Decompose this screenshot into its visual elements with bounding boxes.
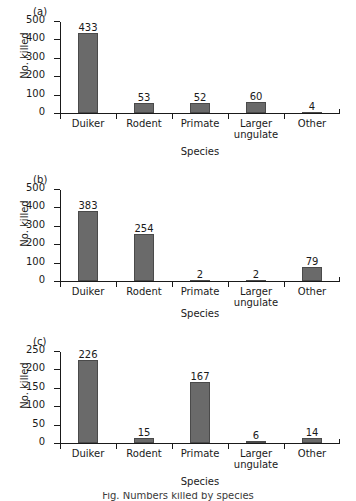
panel-a-category-other: Other bbox=[284, 118, 340, 129]
panel-a-ytick-4: 400 bbox=[54, 39, 60, 40]
panel-b-category-duiker: Duiker bbox=[60, 286, 116, 297]
panel-a-x-axis-title: Species bbox=[60, 146, 340, 157]
panel-b-plot-area: 0 100 200 300 400 500 383 254 2 2 bbox=[60, 190, 340, 282]
panel-c-bar-rodent: 15 bbox=[134, 438, 154, 444]
panel-c-bar-other: 14 bbox=[302, 438, 322, 443]
panel-c-ytick-4: 200 bbox=[54, 369, 60, 370]
panel-c-x-axis-title: Species bbox=[60, 476, 340, 487]
panel-a-x-axis-line bbox=[60, 113, 340, 114]
panel-c-x-axis-line bbox=[60, 443, 340, 444]
panel-b-ytick-2: 200 bbox=[54, 244, 60, 245]
panel-a-x-axis-end-cap bbox=[339, 109, 340, 114]
panel-b-bar-primate: 2 bbox=[190, 280, 210, 282]
panel-a: (a) No. killed 0 100 200 300 400 500 433 bbox=[0, 0, 356, 168]
panel-a-ytick-1: 100 bbox=[54, 95, 60, 96]
panel-c-bar-duiker: 226 bbox=[78, 360, 98, 443]
panel-a-bar-other: 4 bbox=[302, 112, 322, 114]
panel-b-bar-other: 79 bbox=[302, 267, 322, 282]
panel-b-bar-duiker: 383 bbox=[78, 211, 98, 282]
panel-b-category-other: Other bbox=[284, 286, 340, 297]
panel-b-x-axis-end-cap bbox=[339, 277, 340, 282]
panel-b-x-axis-line bbox=[60, 281, 340, 282]
panel-b-bar-rodent: 254 bbox=[134, 234, 154, 281]
panel-b-ytick-5: 500 bbox=[54, 189, 60, 190]
panel-a-bar-larger-ungulate: 60 bbox=[246, 102, 266, 113]
panel-c-bar-larger-ungulate: 6 bbox=[246, 441, 266, 443]
panel-a-category-larger-ungulate: Larger ungulate bbox=[228, 118, 284, 140]
panel-c-ytick-5: 250 bbox=[54, 351, 60, 352]
panel-b-bar-larger-ungulate: 2 bbox=[246, 280, 266, 282]
panel-a-bar-duiker: 433 bbox=[78, 33, 98, 113]
panel-c-ytick-1: 50 bbox=[54, 425, 60, 426]
panel-a-ytick-3: 300 bbox=[54, 58, 60, 59]
panel-a-category-rodent: Rodent bbox=[116, 118, 172, 129]
panel-a-y-axis-line bbox=[60, 22, 61, 114]
panel-a-ytick-2: 200 bbox=[54, 76, 60, 77]
panel-b: (b) No. killed 0 100 200 300 400 500 383… bbox=[0, 168, 356, 330]
panel-a-plot-area: 0 100 200 300 400 500 433 53 52 60 bbox=[60, 22, 340, 114]
panel-c-category-duiker: Duiker bbox=[60, 448, 116, 459]
panel-c-plot-area: 0 50 100 150 200 250 226 15 167 6 bbox=[60, 352, 340, 444]
panel-c-x-axis-end-cap bbox=[339, 439, 340, 444]
panel-c-bar-primate: 167 bbox=[190, 382, 210, 444]
panel-c-category-other: Other bbox=[284, 448, 340, 459]
panel-b-y-axis-line bbox=[60, 190, 61, 282]
panel-a-bar-primate: 52 bbox=[190, 103, 210, 113]
panel-b-category-larger-ungulate: Larger ungulate bbox=[228, 286, 284, 308]
panel-b-category-rodent: Rodent bbox=[116, 286, 172, 297]
panel-a-ytick-5: 500 bbox=[54, 21, 60, 22]
panel-c-category-larger-ungulate: Larger ungulate bbox=[228, 448, 284, 470]
panel-a-bar-rodent: 53 bbox=[134, 103, 154, 113]
panel-c-category-primate: Primate bbox=[172, 448, 228, 459]
panel-c-y-axis-line bbox=[60, 352, 61, 444]
panel-b-x-axis-title: Species bbox=[60, 308, 340, 319]
panel-a-category-duiker: Duiker bbox=[60, 118, 116, 129]
panel-c: (c) No. killed 0 50 100 150 200 250 226 … bbox=[0, 330, 356, 501]
panel-b-ytick-3: 300 bbox=[54, 226, 60, 227]
panel-a-category-primate: Primate bbox=[172, 118, 228, 129]
figure-three-panel-bar-charts: (a) No. killed 0 100 200 300 400 500 433 bbox=[0, 0, 356, 501]
panel-c-ytick-2: 100 bbox=[54, 406, 60, 407]
panel-b-category-primate: Primate bbox=[172, 286, 228, 297]
figure-caption-cutoff: Fig. Numbers killed by species bbox=[0, 492, 356, 501]
panel-c-category-rodent: Rodent bbox=[116, 448, 172, 459]
panel-c-ytick-3: 150 bbox=[54, 388, 60, 389]
panel-b-ytick-1: 100 bbox=[54, 263, 60, 264]
panel-b-ytick-4: 400 bbox=[54, 207, 60, 208]
